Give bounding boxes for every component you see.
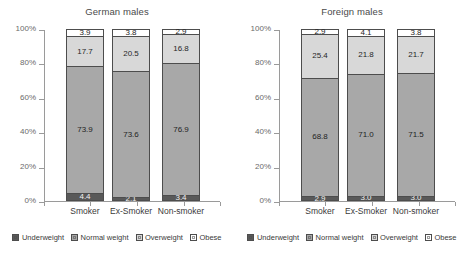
bar-segment-value: 4.4 [79,193,90,201]
bar-segment-value: 17.7 [77,48,93,56]
y-axis-tick-label: 20% [255,162,271,171]
bar-segment: 3.0 [397,196,435,201]
bar-segment: 3.0 [347,196,385,201]
legend: UnderweightNormal weightOverweightObese [0,233,234,242]
bar-segment-value: 21.8 [358,51,374,59]
bar-segment: 3.9 [66,29,104,36]
y-axis-tick: 20% [39,168,44,169]
stacked-bar: 2.968.825.42.9 [301,29,339,201]
legend: UnderweightNormal weightOverweightObese [235,233,469,242]
bar-segment: 3.8 [112,29,150,36]
bar-segment: 73.6 [112,71,150,198]
chart-panel-foreign-males: Foreign males 0%20%40%60%80%100%2.968.82… [235,0,469,255]
bar-segment: 20.5 [112,36,150,71]
y-axis-tick-label: 40% [255,127,271,136]
stacked-bar: 4.473.917.73.9 [66,29,104,201]
stacked-bar: 3.476.916.82.9 [162,29,200,201]
y-axis-tick-label: 100% [251,24,271,33]
y-axis-tick: 100% [39,30,44,31]
x-axis-category-label: Non-smoker [141,206,221,216]
y-axis-line [44,30,45,202]
legend-item: Obese [425,233,457,242]
bar-segment-value: 76.9 [173,126,189,134]
legend-item: Obese [190,233,222,242]
legend-swatch-icon [12,234,19,241]
bar-segment-value: 2.9 [175,28,186,36]
y-axis-tick-label: 100% [16,24,36,33]
bar-segment: 3.8 [397,29,435,36]
bar-segment: 3.4 [162,195,200,201]
legend-item: Overweight [136,233,183,242]
plot-area: 0%20%40%60%80%100%2.968.825.42.93.071.02… [279,30,455,202]
bar-segment: 68.8 [301,78,339,196]
bar-segment-value: 20.5 [123,50,139,58]
y-axis-tick: 40% [274,133,279,134]
bar-segment: 71.0 [347,74,385,196]
legend-swatch-icon [247,234,254,241]
y-axis-tick: 100% [274,30,279,31]
y-axis-tick: 80% [39,64,44,65]
y-axis-line [279,30,280,202]
bar-segment: 76.9 [162,63,200,195]
legend-label: Normal weight [81,233,129,242]
y-axis-tick-label: 0% [24,196,36,205]
legend-swatch-icon [306,234,313,241]
chart-title: Foreign males [235,6,469,17]
bar-segment: 71.5 [397,73,435,196]
y-axis-tick-label: 60% [20,93,36,102]
legend-swatch-icon [71,234,78,241]
y-axis-tick-label: 40% [20,127,36,136]
legend-item: Normal weight [71,233,128,242]
stacked-bar: 2.173.620.53.8 [112,29,150,201]
bar-segment-value: 4.1 [360,29,371,37]
legend-swatch-icon [425,234,432,241]
bar-segment-value: 71.5 [408,131,424,139]
bar-segment: 21.8 [347,36,385,73]
bar-segment: 17.7 [66,36,104,66]
bar-segment-value: 25.4 [312,52,328,60]
legend-swatch-icon [371,234,378,241]
bar-segment-value: 3.8 [125,29,136,37]
y-axis-tick-label: 80% [20,58,36,67]
y-axis-tick-label: 80% [255,58,271,67]
chart-title: German males [0,6,234,17]
legend-item: Underweight [247,233,299,242]
y-axis-tick-label: 0% [259,196,271,205]
chart-panel-german-males: German males 0%20%40%60%80%100%4.473.917… [0,0,234,255]
legend-swatch-icon [190,234,197,241]
bar-segment-value: 3.4 [175,194,186,202]
legend-label: Underweight [257,233,299,242]
legend-item: Underweight [12,233,64,242]
bar-segment-value: 71.0 [358,131,374,139]
y-axis-tick-label: 60% [255,93,271,102]
x-axis-category-label: Non-smoker [376,206,456,216]
bar-segment-value: 16.8 [173,45,189,53]
figure-root: German males 0%20%40%60%80%100%4.473.917… [0,0,469,255]
bar-segment: 4.4 [66,193,104,201]
bar-segment-value: 3.9 [79,29,90,37]
bar-segment: 2.9 [301,196,339,201]
bar-segment-value: 3.8 [410,29,421,37]
legend-swatch-icon [136,234,143,241]
legend-label: Obese [199,233,221,242]
bar-segment-value: 2.9 [314,28,325,36]
bar-segment-value: 21.7 [408,51,424,59]
bar-segment: 2.9 [162,29,200,34]
legend-item: Normal weight [306,233,363,242]
y-axis-tick: 60% [274,99,279,100]
bar-segment: 4.1 [347,29,385,36]
y-axis-tick: 40% [39,133,44,134]
stacked-bar: 3.071.521.73.8 [397,29,435,201]
bar-segment: 25.4 [301,34,339,78]
legend-label: Obese [434,233,456,242]
plot-area: 0%20%40%60%80%100%4.473.917.73.92.173.62… [44,30,220,202]
legend-label: Overweight [380,233,418,242]
y-axis-tick: 60% [39,99,44,100]
bar-segment: 16.8 [162,34,200,63]
bar-segment: 21.7 [397,36,435,73]
bar-segment: 2.1 [112,197,150,201]
y-axis-tick: 20% [274,168,279,169]
y-axis-tick: 80% [274,64,279,65]
legend-label: Normal weight [316,233,364,242]
bar-segment-value: 73.6 [123,131,139,139]
